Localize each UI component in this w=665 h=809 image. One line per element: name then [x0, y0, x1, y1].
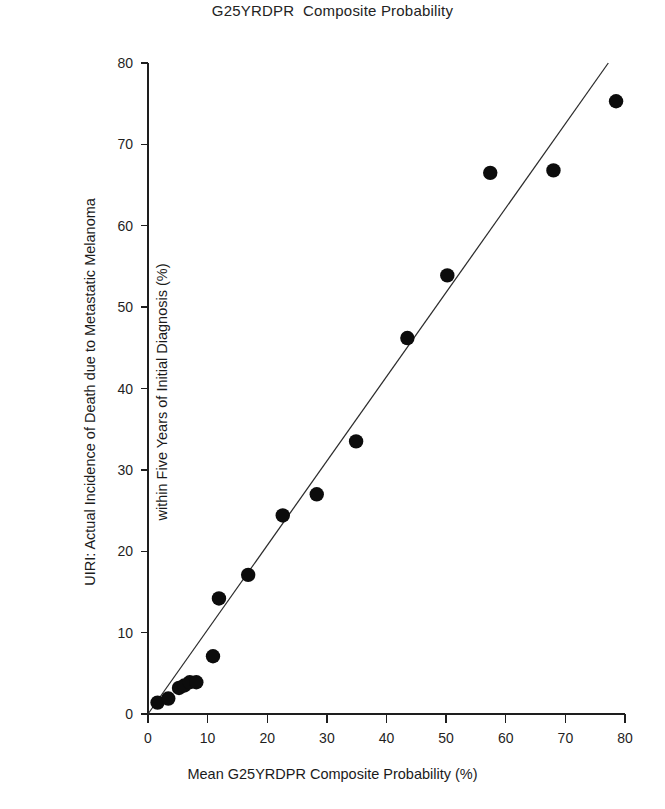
- y-tick-label-80: 80: [117, 55, 133, 71]
- data-point: [349, 434, 363, 448]
- x-tick-label-30: 30: [319, 730, 335, 746]
- data-point: [400, 331, 414, 345]
- x-axis-tick-labels: 0 10 20 30 40 50 60 70 80: [144, 730, 633, 746]
- data-point: [276, 508, 290, 522]
- x-tick-label-20: 20: [260, 730, 276, 746]
- x-tick-label-50: 50: [438, 730, 454, 746]
- x-tick-label-80: 80: [617, 730, 633, 746]
- scatter-chart-figure: G25YRDPR Composite Probability G25YRDPR …: [0, 0, 665, 809]
- data-point: [609, 94, 623, 108]
- data-point: [546, 163, 560, 177]
- data-point: [241, 568, 255, 582]
- x-axis-title: Mean G25YRDPR Composite Probability (%): [0, 766, 665, 782]
- data-point: [310, 487, 324, 501]
- y-axis-title-line-2: within Five Years of Initial Diagnosis (…: [150, 72, 174, 712]
- x-tick-label-10: 10: [200, 730, 216, 746]
- x-tick-label-60: 60: [498, 730, 514, 746]
- y-axis-title-line-1: UIRI: Actual Incidence of Death due to M…: [78, 72, 102, 712]
- y-axis-title: UIRI: Actual Incidence of Death due to M…: [30, 72, 58, 712]
- x-axis-ticks: [148, 714, 625, 723]
- x-tick-label-0: 0: [144, 730, 152, 746]
- x-tick-label-40: 40: [379, 730, 395, 746]
- data-point: [440, 268, 454, 282]
- x-tick-label-70: 70: [558, 730, 574, 746]
- data-point: [483, 166, 497, 180]
